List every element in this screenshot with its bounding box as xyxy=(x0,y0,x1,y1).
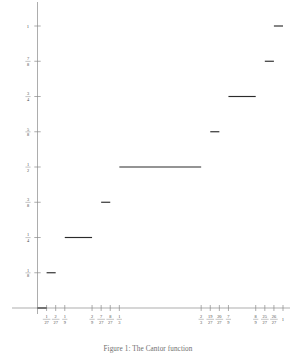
x-tick-label: 227 xyxy=(52,314,60,325)
x-tick-label: 827 xyxy=(106,314,114,325)
y-tick-value: 1 xyxy=(27,24,30,29)
y-tick-numerator: 5 xyxy=(27,127,30,132)
y-tick-numerator: 1 xyxy=(27,268,29,273)
x-tick-denominator: 27 xyxy=(272,320,277,325)
x-tick-label: 79 xyxy=(226,314,231,325)
x-tick-numerator: 7 xyxy=(100,314,103,319)
x-tick-label: 23 xyxy=(199,314,204,325)
y-tick-denominator: 8 xyxy=(27,203,30,208)
y-tick-label: 34 xyxy=(25,91,30,102)
x-tick-numerator: 19 xyxy=(208,314,213,319)
x-tick-label: 13 xyxy=(117,314,122,325)
step-segments xyxy=(38,26,284,308)
x-tick-label: 1 xyxy=(282,317,285,322)
x-tick-numerator: 8 xyxy=(255,314,258,319)
y-tick-numerator: 3 xyxy=(27,197,30,202)
y-axis-tick-labels: 178345812381418 xyxy=(25,24,30,279)
figure-caption: Figure 1: The Cantor function xyxy=(0,343,296,356)
x-tick-denominator: 27 xyxy=(208,320,213,325)
x-tick-label: 2527 xyxy=(261,314,269,325)
x-tick-denominator: 27 xyxy=(99,320,104,325)
x-tick-numerator: 2 xyxy=(200,314,202,319)
x-tick-denominator: 9 xyxy=(227,320,230,325)
x-tick-denominator: 9 xyxy=(91,320,94,325)
y-tick-label: 14 xyxy=(25,232,30,243)
x-tick-numerator: 26 xyxy=(272,314,277,319)
x-tick-denominator: 27 xyxy=(108,320,113,325)
x-tick-denominator: 3 xyxy=(200,320,203,325)
x-tick-denominator: 9 xyxy=(64,320,67,325)
x-tick-numerator: 8 xyxy=(109,314,112,319)
x-tick-numerator: 1 xyxy=(118,314,120,319)
y-tick-label: 18 xyxy=(25,268,30,279)
x-tick-denominator: 27 xyxy=(53,320,58,325)
x-tick-label: 2027 xyxy=(216,314,224,325)
x-tick-denominator: 27 xyxy=(263,320,268,325)
x-tick-numerator: 25 xyxy=(263,314,268,319)
x-tick-numerator: 7 xyxy=(227,314,230,319)
tick-marks xyxy=(34,26,283,311)
cantor-function-figure: 1272271929727827132319272027798925272627… xyxy=(0,0,296,356)
x-tick-label: 29 xyxy=(89,314,94,325)
x-tick-denominator: 3 xyxy=(118,320,121,325)
y-tick-denominator: 8 xyxy=(27,62,30,67)
x-tick-denominator: 9 xyxy=(255,320,258,325)
x-tick-numerator: 20 xyxy=(217,314,222,319)
x-tick-label: 19 xyxy=(62,314,67,325)
x-tick-numerator: 1 xyxy=(64,314,66,319)
y-tick-denominator: 4 xyxy=(27,97,30,102)
y-tick-denominator: 8 xyxy=(27,132,30,137)
y-tick-label: 58 xyxy=(25,127,30,138)
plot-canvas: 1272271929727827132319272027798925272627… xyxy=(0,0,296,356)
axes xyxy=(12,2,290,314)
x-tick-numerator: 2 xyxy=(55,314,57,319)
y-tick-label: 78 xyxy=(25,56,30,67)
x-tick-numerator: 2 xyxy=(91,314,93,319)
y-tick-label: 38 xyxy=(25,197,30,208)
y-tick-numerator: 1 xyxy=(27,232,29,237)
x-axis-tick-labels: 1272271929727827132319272027798925272627… xyxy=(43,314,285,325)
y-tick-denominator: 8 xyxy=(27,273,30,278)
y-tick-label: 1 xyxy=(27,24,30,29)
y-tick-denominator: 2 xyxy=(27,168,29,173)
y-tick-numerator: 7 xyxy=(27,56,30,61)
x-tick-label: 127 xyxy=(43,314,51,325)
x-tick-label: 2627 xyxy=(270,314,278,325)
x-tick-denominator: 27 xyxy=(217,320,222,325)
x-tick-value: 1 xyxy=(282,317,285,322)
y-tick-numerator: 3 xyxy=(27,91,30,96)
y-tick-denominator: 4 xyxy=(27,238,30,243)
x-tick-label: 89 xyxy=(253,314,258,325)
x-tick-numerator: 1 xyxy=(45,314,47,319)
y-tick-numerator: 1 xyxy=(27,162,29,167)
x-tick-label: 727 xyxy=(97,314,105,325)
x-tick-label: 1927 xyxy=(206,314,214,325)
x-tick-denominator: 27 xyxy=(44,320,49,325)
y-tick-label: 12 xyxy=(25,162,30,173)
